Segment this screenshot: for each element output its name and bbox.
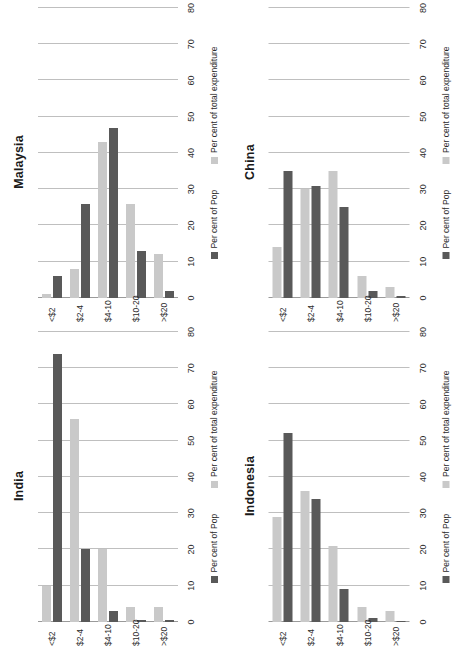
bar-groups-indonesia xyxy=(268,332,409,622)
plot-area-india xyxy=(38,332,178,622)
bar-pop xyxy=(396,621,405,622)
bar-expenditure xyxy=(328,171,337,298)
axis-tick-label: 60 xyxy=(417,399,427,409)
axis-tick-label: 30 xyxy=(417,508,427,518)
axis-tick-label: 70 xyxy=(186,39,196,49)
axis-tick-label: 20 xyxy=(417,544,427,554)
axis-tick-label: 50 xyxy=(186,436,196,446)
category-label: <$2 xyxy=(277,632,287,646)
rotated-chart-host-malaysia: Malaysia <$2$2-4$4-10$10-20>$20 01020304… xyxy=(0,0,230,324)
legend-label-pop: Per cent of Pop xyxy=(209,190,219,249)
panel-indonesia: Indonesia <$2$2-4$4-10$10-20>$20 0102030… xyxy=(230,324,461,648)
legend-item-pop: Per cent of Pop xyxy=(209,190,219,260)
axis-tick-label: 40 xyxy=(186,148,196,158)
bar-group xyxy=(38,8,66,298)
category-label: >$20 xyxy=(390,627,400,646)
bar-pop xyxy=(396,296,405,298)
chart-china: China <$2$2-4$4-10$10-20>$20 01020304050… xyxy=(230,0,461,324)
bar-pop xyxy=(165,620,174,622)
value-axis-ticks-china: 01020304050607080 xyxy=(417,8,431,298)
legend-swatch-pop-icon xyxy=(211,576,218,583)
legend-indonesia: Per cent of Pop Per cent of total expend… xyxy=(437,332,453,622)
bar-group xyxy=(296,332,324,622)
bar-expenditure xyxy=(154,255,163,299)
bar-expenditure xyxy=(42,586,51,622)
legend-swatch-pop-icon xyxy=(442,576,449,583)
legend-label-pop: Per cent of Pop xyxy=(440,514,450,573)
legend-malaysia: Per cent of Pop Per cent of total expend… xyxy=(206,8,222,298)
category-label: >$20 xyxy=(159,303,169,322)
legend-label-expenditure: Per cent of total expenditure xyxy=(440,371,450,477)
bar-group xyxy=(324,8,352,298)
bar-pop xyxy=(339,589,348,622)
legend-swatch-expenditure-icon xyxy=(442,157,449,164)
bar-expenditure xyxy=(328,546,337,622)
bar-group xyxy=(268,8,296,298)
axis-tick-label: 70 xyxy=(417,363,427,373)
bar-pop xyxy=(137,620,146,622)
bar-pop xyxy=(339,207,348,298)
bar-group xyxy=(66,332,94,622)
bar-expenditure xyxy=(42,294,51,298)
bar-pop xyxy=(368,291,377,298)
bar-groups-india xyxy=(38,332,178,622)
bar-expenditure xyxy=(357,276,366,298)
bar-group xyxy=(122,332,150,622)
bar-expenditure xyxy=(300,492,309,623)
axis-tick-label: 60 xyxy=(417,75,427,85)
plot-area-malaysia xyxy=(38,8,178,298)
bar-expenditure xyxy=(300,189,309,298)
chart-grid: Malaysia <$2$2-4$4-10$10-20>$20 01020304… xyxy=(0,0,461,648)
category-label: $10-20 xyxy=(362,296,372,322)
legend-label-pop: Per cent of Pop xyxy=(209,514,219,573)
bar-pop xyxy=(165,291,174,298)
category-label: $4-10 xyxy=(103,300,113,322)
bar-expenditure xyxy=(98,142,107,298)
bar-pop xyxy=(311,499,320,622)
bar-expenditure xyxy=(70,419,79,622)
value-axis-ticks-indonesia: 01020304050607080 xyxy=(417,332,431,622)
category-label: <$2 xyxy=(277,308,287,322)
axis-tick-label: 10 xyxy=(186,581,196,591)
bar-expenditure xyxy=(154,608,163,623)
bar-group xyxy=(296,8,324,298)
axis-tick-label: 30 xyxy=(417,184,427,194)
axis-tick-label: 40 xyxy=(186,472,196,482)
chart-indonesia: Indonesia <$2$2-4$4-10$10-20>$20 0102030… xyxy=(230,324,461,648)
category-label: $10-20 xyxy=(131,296,141,322)
chart-title-malaysia: Malaysia xyxy=(12,0,26,324)
legend-item-expenditure: Per cent of total expenditure xyxy=(209,371,219,488)
axis-tick-label: 40 xyxy=(417,472,427,482)
axis-tick-label: 30 xyxy=(186,508,196,518)
bar-group xyxy=(66,8,94,298)
value-axis-ticks-india: 01020304050607080 xyxy=(186,332,200,622)
category-label: >$20 xyxy=(390,303,400,322)
bar-group xyxy=(268,332,296,622)
category-label: >$20 xyxy=(159,627,169,646)
legend-item-expenditure: Per cent of total expenditure xyxy=(209,47,219,164)
category-label: $10-20 xyxy=(131,620,141,646)
bar-group xyxy=(94,8,122,298)
bar-groups-malaysia xyxy=(38,8,178,298)
axis-tick-label: 60 xyxy=(186,399,196,409)
bar-pop xyxy=(81,550,90,623)
bar-expenditure xyxy=(126,608,135,623)
category-label: $4-10 xyxy=(103,624,113,646)
category-label: $2-4 xyxy=(305,305,315,322)
category-label: $4-10 xyxy=(334,624,344,646)
axis-tick-label: 10 xyxy=(417,257,427,267)
panel-china: China <$2$2-4$4-10$10-20>$20 01020304050… xyxy=(230,0,461,324)
legend-india: Per cent of Pop Per cent of total expend… xyxy=(206,332,222,622)
axis-tick-label: 70 xyxy=(186,363,196,373)
bar-groups-china xyxy=(268,8,409,298)
category-label: $2-4 xyxy=(305,629,315,646)
bar-pop xyxy=(283,434,292,623)
rotated-chart-host-china: China <$2$2-4$4-10$10-20>$20 01020304050… xyxy=(230,0,461,324)
axis-tick-label: 10 xyxy=(186,257,196,267)
legend-item-expenditure: Per cent of total expenditure xyxy=(440,371,450,488)
value-axis-ticks-malaysia: 01020304050607080 xyxy=(186,8,200,298)
category-label: $4-10 xyxy=(334,300,344,322)
legend-swatch-expenditure-icon xyxy=(442,481,449,488)
panel-malaysia: Malaysia <$2$2-4$4-10$10-20>$20 01020304… xyxy=(0,0,230,324)
axis-tick-label: 80 xyxy=(417,327,427,337)
